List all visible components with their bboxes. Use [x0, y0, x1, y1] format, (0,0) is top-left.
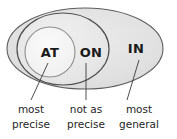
caption-on-line2: precise	[67, 118, 105, 130]
venn-diagram: AT ON IN most precise not as precise mos…	[0, 0, 177, 139]
caption-at-line1: most	[18, 103, 44, 115]
set-label-at: AT	[41, 45, 60, 60]
caption-in-line2: general	[119, 118, 159, 130]
set-label-in: IN	[128, 41, 144, 56]
set-label-on: ON	[80, 45, 103, 60]
caption-in-line1: most	[126, 103, 152, 115]
caption-on-line1: not as	[70, 103, 102, 115]
venn-diagram-canvas: AT ON IN most precise not as precise mos…	[0, 0, 177, 139]
caption-at-line2: precise	[12, 118, 50, 130]
